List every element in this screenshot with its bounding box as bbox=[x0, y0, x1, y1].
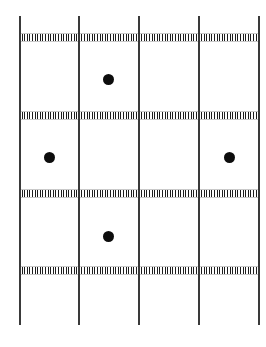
vertical-line-3 bbox=[138, 16, 140, 325]
dot-lower-center bbox=[103, 231, 114, 242]
dot-middle-left bbox=[44, 152, 55, 163]
dot-middle-right bbox=[224, 152, 235, 163]
vertical-line-2 bbox=[78, 16, 80, 325]
dot-top-center bbox=[103, 74, 114, 85]
diagram-canvas bbox=[0, 0, 266, 347]
vertical-line-5 bbox=[258, 16, 260, 325]
vertical-line-1 bbox=[19, 16, 21, 325]
vertical-line-4 bbox=[198, 16, 200, 325]
